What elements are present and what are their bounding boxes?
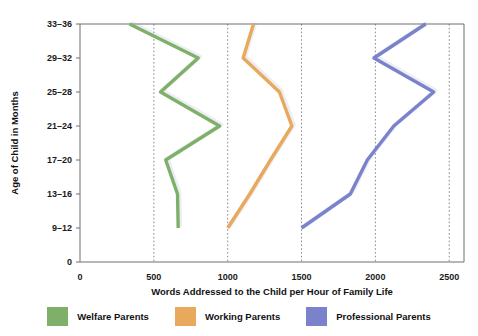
y-tick-label: 17–20 [47,155,72,165]
legend-item-working-parents[interactable]: Working Parents [175,307,280,326]
y-tick-label: 9–12 [52,223,72,233]
y-axis-ticks: 09–1213–1617–2021–2425–2829–3233–36 [47,19,80,267]
legend-item-professional-parents[interactable]: Professional Parents [306,307,431,326]
series-line [228,24,292,228]
y-tick-label: 0 [67,257,72,267]
y-tick-label: 21–24 [47,121,72,131]
series-professional-parents [302,23,436,228]
x-tick-label: 2000 [365,272,385,282]
series-line-shadow [229,23,293,227]
x-axis-ticks: 05001000150020002500 [77,272,459,282]
x-tick-label: 0 [77,272,82,282]
series-line-shadow [303,23,435,227]
y-tick-label: 13–16 [47,189,72,199]
x-tick-label: 1500 [292,272,312,282]
series-line [302,24,434,228]
legend-label: Working Parents [205,311,280,322]
x-axis-title: Words Addressed to the Child per Hour of… [151,286,393,297]
legend-item-welfare-parents[interactable]: Welfare Parents [47,307,149,326]
series-working-parents [228,23,294,228]
legend-swatch-icon [47,307,68,326]
series-line [130,24,220,228]
legend-label: Welfare Parents [77,311,149,322]
legend-label: Professional Parents [336,311,431,322]
y-tick-label: 25–28 [47,87,72,97]
legend-swatch-icon [306,307,327,326]
chart-container: 09–1213–1617–2021–2425–2829–3233–3605001… [0,0,478,336]
axes [80,24,464,262]
legend-swatch-icon [175,307,196,326]
chart-legend: Welfare ParentsWorking ParentsProfession… [0,307,478,326]
y-tick-label: 29–32 [47,53,72,63]
y-axis-title: Age of Child in Months [9,91,20,194]
x-tick-label: 2500 [439,272,459,282]
line-chart: 09–1213–1617–2021–2425–2829–3233–3605001… [0,0,478,300]
series-welfare-parents [130,23,222,228]
x-tick-label: 1000 [218,272,238,282]
y-tick-label: 33–36 [47,19,72,29]
series-group [130,23,436,228]
x-tick-label: 500 [146,272,161,282]
